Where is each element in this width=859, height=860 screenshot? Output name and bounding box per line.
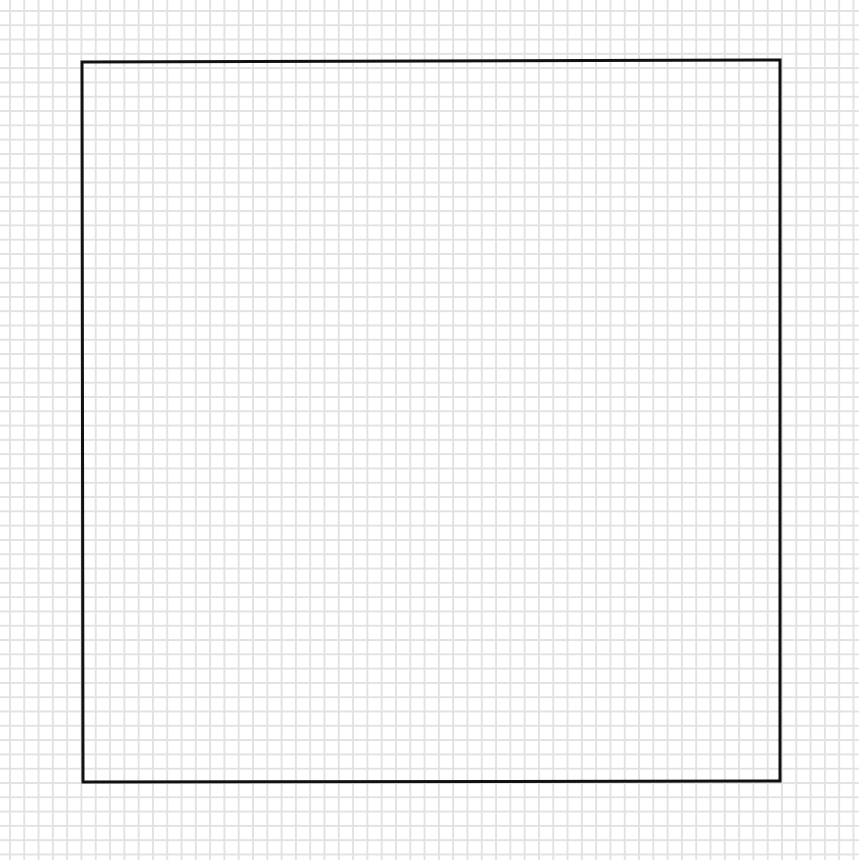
square-diagram bbox=[0, 0, 859, 860]
square-outline bbox=[82, 60, 780, 782]
